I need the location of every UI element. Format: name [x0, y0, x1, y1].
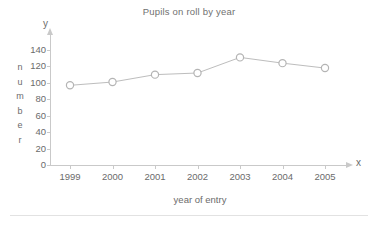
data-point-marker: [151, 71, 158, 78]
data-point-marker: [279, 60, 286, 67]
plot-area: 020406080100120140 199920002001200220032…: [0, 0, 378, 225]
data-point-marker: [194, 69, 201, 76]
data-point-marker: [236, 54, 243, 61]
chart-figure: Pupils on roll by year y x n u m b e r y…: [0, 0, 378, 225]
data-series: [0, 0, 378, 225]
data-point-marker: [109, 78, 116, 85]
data-point-marker: [321, 64, 328, 71]
data-point-marker: [66, 82, 73, 89]
bottom-divider: [10, 215, 368, 216]
